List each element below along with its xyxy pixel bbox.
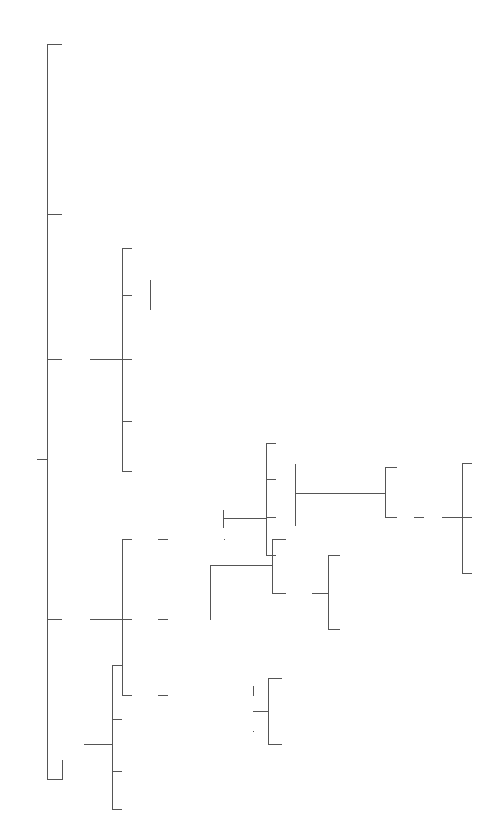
connector (122, 295, 132, 296)
connector (295, 464, 296, 526)
connector (253, 686, 254, 696)
connector (122, 248, 132, 249)
connector (385, 517, 397, 518)
connector (158, 695, 168, 696)
connector (223, 518, 266, 519)
connector (462, 463, 463, 574)
connector (266, 443, 276, 444)
connector (210, 565, 272, 566)
connector (266, 443, 267, 556)
connector (90, 619, 122, 620)
connector (268, 678, 282, 679)
connector (268, 679, 269, 745)
connector (62, 760, 63, 780)
connector (47, 44, 62, 45)
connector (328, 555, 329, 630)
connector (112, 809, 122, 810)
connector (122, 619, 132, 620)
connector (462, 517, 472, 518)
connector (112, 665, 122, 666)
connector (112, 665, 113, 810)
connector (253, 711, 268, 712)
connector (266, 555, 276, 556)
connector (112, 719, 122, 720)
connector (47, 779, 62, 780)
connector (122, 359, 132, 360)
connector (210, 565, 211, 620)
connector (122, 540, 123, 696)
connector (158, 539, 168, 540)
diagram-canvas (0, 0, 502, 824)
connector (328, 629, 340, 630)
connector (253, 731, 254, 732)
top-bus-line (47, 44, 48, 780)
connector (84, 744, 112, 745)
connector (90, 359, 122, 360)
connector (266, 479, 276, 480)
connector (122, 695, 132, 696)
connector (385, 467, 386, 518)
connector (462, 463, 472, 464)
connector (272, 539, 273, 594)
connector (462, 573, 472, 574)
connector (122, 471, 132, 472)
connector (266, 517, 276, 518)
connector (122, 539, 132, 540)
connector (328, 555, 340, 556)
connector (150, 280, 151, 310)
connector (272, 539, 286, 540)
connector (223, 510, 224, 528)
connector (272, 593, 286, 594)
connector (112, 771, 122, 772)
connector (312, 593, 328, 594)
connector (47, 214, 62, 215)
connector (37, 459, 47, 460)
connector (385, 467, 397, 468)
connector (224, 539, 225, 540)
connector (122, 421, 132, 422)
connector (268, 744, 282, 745)
connector (295, 493, 385, 494)
connector (414, 517, 424, 518)
connector (442, 517, 462, 518)
connector (47, 619, 62, 620)
connector (158, 619, 168, 620)
connector (47, 359, 62, 360)
connector (122, 248, 123, 472)
